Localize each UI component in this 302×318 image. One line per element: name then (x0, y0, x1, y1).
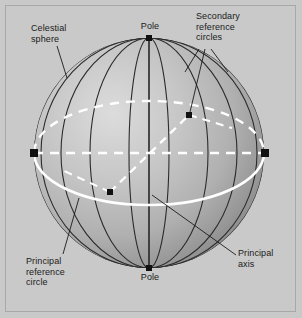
equator-right-marker (261, 149, 269, 157)
label-celestial-sphere: Celestial sphere (31, 23, 66, 44)
label-secondary-reference-circles: Secondary reference circles (196, 11, 240, 43)
label-pole-south: Pole (130, 272, 170, 283)
secondary-upper-marker (186, 112, 192, 118)
leader-celestial-sphere (57, 46, 67, 78)
label-principal-reference-circle: Principal reference circle (26, 256, 65, 288)
pole-south-marker (146, 265, 152, 271)
secondary-lower-marker (107, 189, 113, 195)
label-principal-axis: Principal axis (238, 248, 273, 269)
equator-left-marker (30, 149, 38, 157)
celestial-sphere-figure: Celestial sphere Secondary reference cir… (0, 0, 302, 318)
label-pole-north: Pole (130, 21, 170, 32)
pole-north-marker (146, 35, 152, 41)
